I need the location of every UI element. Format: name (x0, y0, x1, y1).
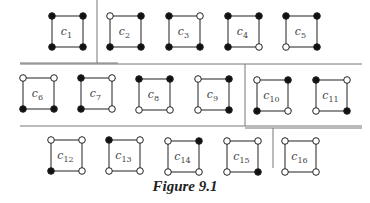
filled-dot-icon-tr (196, 138, 203, 145)
square-c3: c3 (166, 13, 204, 51)
open-dot-icon-bl (136, 107, 143, 114)
filled-dot-icon-tr (80, 13, 87, 20)
filled-dot-icon-bl (49, 44, 56, 51)
square-label: c12 (57, 149, 73, 164)
filled-dot-icon-bl (78, 106, 85, 113)
square-c7: c7 (78, 75, 116, 113)
open-dot-icon-tl (254, 77, 261, 84)
filled-dot-icon-tr (285, 77, 292, 84)
figure-caption: Figure 9.1 (0, 178, 370, 195)
filled-dot-icon-tr (138, 13, 145, 20)
filled-dot-icon-tr (167, 76, 174, 83)
square-label: c14 (174, 150, 190, 165)
square-c10: c10 (254, 77, 292, 115)
open-dot-icon-br (167, 107, 174, 114)
filled-dot-icon-br (51, 106, 58, 113)
open-dot-icon-bl (106, 168, 113, 175)
filled-dot-icon-br (138, 44, 145, 51)
filled-dot-icon-tl (313, 77, 320, 84)
open-dot-icon-br (79, 168, 86, 175)
open-dot-icon-br (137, 168, 144, 175)
square-c13: c13 (106, 137, 144, 175)
open-dot-icon-tr (197, 13, 204, 20)
filled-dot-icon-tl (136, 76, 143, 83)
filled-dot-icon-br (344, 108, 351, 115)
square-label: c11 (322, 89, 338, 104)
filled-dot-icon-tl (283, 13, 290, 20)
square-label: c4 (237, 25, 248, 40)
filled-dot-icon-bl (166, 44, 173, 51)
open-dot-icon-tr (313, 138, 320, 145)
square-c12: c12 (48, 137, 86, 175)
open-dot-icon-bl (282, 169, 289, 176)
open-dot-icon-tl (195, 76, 202, 83)
open-dot-icon-tr (255, 138, 262, 145)
filled-dot-icon-br (226, 107, 233, 114)
square-label: c15 (233, 150, 249, 165)
open-dot-icon-tl (282, 138, 289, 145)
filled-dot-icon-br (255, 169, 262, 176)
diagram-canvas: c1c2c3c4c5c6c7c8c9c10c11c12c13c14c15c16 (0, 0, 370, 203)
open-dot-icon-br (196, 169, 203, 176)
square-c15: c15 (224, 138, 262, 176)
open-dot-icon-bl (313, 108, 320, 115)
square-label: c7 (90, 87, 101, 102)
square-grid: c1c2c3c4c5c6c7c8c9c10c11c12c13c14c15c16 (20, 13, 351, 176)
square-c2: c2 (107, 13, 145, 51)
filled-dot-icon-br (314, 44, 321, 51)
open-dot-icon-br (313, 169, 320, 176)
square-label: c8 (148, 88, 159, 103)
square-label: c9 (207, 88, 218, 103)
filled-dot-icon-tr (226, 76, 233, 83)
open-dot-icon-bl (195, 107, 202, 114)
filled-dot-icon-tl (166, 13, 173, 20)
open-dot-icon-tl (107, 13, 114, 20)
square-label: c10 (263, 89, 279, 104)
square-label: c16 (291, 150, 307, 165)
open-dot-icon-tl (224, 138, 231, 145)
open-dot-icon-tl (20, 75, 27, 82)
square-c16: c16 (282, 138, 320, 176)
filled-dot-icon-bl (225, 44, 232, 51)
square-c11: c11 (313, 77, 351, 115)
square-label: c3 (178, 25, 189, 40)
open-dot-icon-br (256, 44, 263, 51)
filled-dot-icon-tl (106, 137, 113, 144)
square-label: c1 (61, 25, 72, 40)
square-c9: c9 (195, 76, 233, 114)
filled-dot-icon-br (197, 44, 204, 51)
square-c8: c8 (136, 76, 174, 114)
square-c14: c14 (165, 138, 203, 176)
filled-dot-icon-bl (20, 106, 27, 113)
square-label: c2 (119, 25, 130, 40)
square-label: c5 (295, 25, 306, 40)
open-dot-icon-tr (137, 137, 144, 144)
square-label: c6 (32, 87, 43, 102)
filled-dot-icon-bl (107, 44, 114, 51)
filled-dot-icon-tr (314, 13, 321, 20)
filled-dot-icon-bl (48, 168, 55, 175)
separator-lines (20, 0, 362, 168)
filled-dot-icon-tl (225, 13, 232, 20)
open-dot-icon-tr (51, 75, 58, 82)
filled-dot-icon-tl (49, 13, 56, 20)
filled-dot-icon-tl (78, 75, 85, 82)
filled-dot-icon-br (80, 44, 87, 51)
filled-dot-icon-bl (254, 108, 261, 115)
square-label: c13 (115, 149, 131, 164)
open-dot-icon-bl (224, 169, 231, 176)
square-c4: c4 (225, 13, 263, 51)
open-dot-icon-br (109, 106, 116, 113)
open-dot-icon-tr (79, 137, 86, 144)
open-dot-icon-bl (283, 44, 290, 51)
open-dot-icon-tr (109, 75, 116, 82)
open-dot-icon-tl (165, 138, 172, 145)
filled-dot-icon-tr (256, 13, 263, 20)
square-c1: c1 (49, 13, 87, 51)
open-dot-icon-tr (344, 77, 351, 84)
open-dot-icon-tl (48, 137, 55, 144)
open-dot-icon-br (285, 108, 292, 115)
square-c5: c5 (283, 13, 321, 51)
open-dot-icon-bl (165, 169, 172, 176)
square-c6: c6 (20, 75, 58, 113)
